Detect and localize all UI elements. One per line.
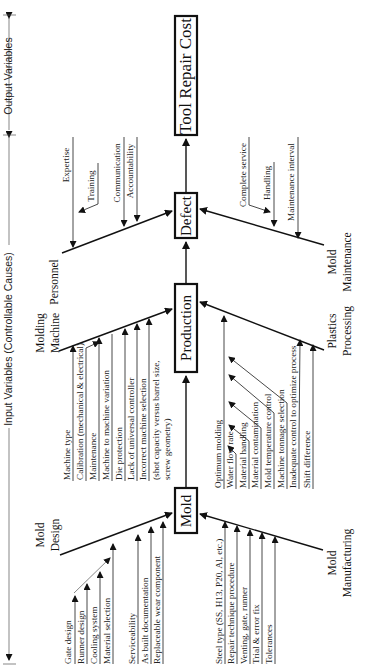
personnel-branch-line [62, 211, 172, 253]
cause-training: Training [86, 170, 96, 202]
node-tool-repair-cost: Tool Repair Cost [175, 16, 197, 135]
mold-design-line1: Mold [34, 522, 46, 547]
mold-label: Mold [178, 494, 194, 527]
branch-personnel: Personnel Expertise Training Communicati… [48, 137, 172, 305]
cause-handling: Handling [262, 166, 272, 201]
cause-steel-type: Steel type (SS, H13, P20, Al, etc.) [214, 539, 224, 664]
plastics-processing-branch-line [200, 302, 324, 350]
cause-serviceability: Serviceability [127, 613, 137, 664]
node-defect: Defect [175, 193, 197, 238]
node-production: Production [175, 284, 197, 372]
cause-tonnage-selection: Machine tonnage selection [276, 389, 286, 488]
axis-bracket: Input Variables (Controllable Causes) Ou… [2, 15, 16, 664]
mold-maintenance-line1: Mold [326, 249, 338, 274]
cause-material-selection: Material selection [102, 598, 112, 664]
cause-mold-temperature: Mold temperature control [263, 393, 273, 488]
mold-design-line2: Design [49, 518, 62, 551]
branch-mold-design: Mold Design Gate design Runner design Co… [34, 513, 172, 664]
production-label: Production [178, 295, 194, 361]
branch-plastics-processing: Plastics Processing Optimum molding Wate… [200, 302, 354, 489]
cause-cooling-system: Cooling system [89, 607, 99, 664]
cause-shift-difference: Shift difference [302, 431, 312, 488]
mold-maintenance-branch-line [200, 209, 324, 245]
branch-mold-manufacturing: Mold Manufacturing Steel type (SS, H13, … [200, 514, 354, 664]
branch-mold-maintenance: Mold Maintenance Complete service Handli… [200, 137, 353, 292]
cause-expertise: Expertise [61, 148, 71, 183]
cause-venting: Venting, gate, runner [239, 587, 249, 664]
mold-design-branch-line [60, 513, 172, 555]
cause-water-flow: Water flow rate [225, 431, 235, 488]
fishbone-diagram: Input Variables (Controllable Causes) Ou… [0, 0, 365, 672]
node-mold: Mold [175, 488, 197, 533]
cause-accountability: Accountability [125, 143, 135, 198]
cause-complete-service: Complete service [238, 143, 248, 207]
tool-repair-cost-label: Tool Repair Cost [176, 18, 195, 134]
molding-machine-line2: Machine [49, 313, 61, 353]
defect-label: Defect [178, 195, 194, 236]
cause-machine-type: Machine type [62, 430, 72, 480]
output-variables-label: Output Variables [2, 37, 14, 114]
plastics-processing-line2: Processing [341, 306, 354, 356]
cause-runner-design: Runner design [76, 610, 86, 664]
cause-gate-design: Gate design [63, 620, 73, 664]
mold-manufacturing-line1: Mold [326, 550, 338, 575]
personnel-category-label: Personnel [48, 259, 60, 304]
mold-manufacturing-line2: Manufacturing [341, 529, 354, 598]
cause-repair-technique: Repair technique procedure [226, 562, 236, 664]
input-variables-label: Input Variables (Controllable Causes) [2, 252, 14, 426]
cause-machine-selection: Incorrect machine selection [138, 378, 148, 480]
cause-die-protection: Die protection [114, 427, 124, 480]
mold-maintenance-line2: Maintenance [341, 232, 353, 291]
molding-machine-line1: Molding [34, 313, 47, 353]
cause-maintenance-interval: Maintenance interval [286, 143, 296, 221]
cause-calibration: Calibration (mechanical & electrical) [75, 343, 85, 480]
cause-as-built: As built documentation [140, 577, 150, 664]
mold-design-sub-branch [74, 558, 110, 593]
cause-communication: Communication [112, 143, 122, 203]
cause-machine-variation: Machine to machine variation [101, 370, 111, 480]
cause-inadequate-control: Inadequate control to optimize process [288, 345, 298, 488]
cause-tolerances: Tolerances [264, 624, 274, 664]
cause-material-contamination: Material contamination [250, 402, 260, 488]
cause-machine-selection-note-2: screw geometry) [162, 419, 172, 480]
cause-material-handling: Material handling [238, 422, 248, 488]
cause-maintenance: Maintenance [88, 433, 98, 480]
cause-machine-selection-note-1: (shot capacity versus barrel size, [151, 360, 161, 480]
plastics-processing-line1: Plastics [326, 313, 338, 349]
branch-molding-machine: Molding Machine Machine type Calibration… [34, 309, 172, 481]
cause-optimum-molding: Optimum molding [213, 419, 223, 488]
cause-universal-controller: Lack of universal controller [126, 378, 136, 480]
inadequate-control-line [299, 340, 300, 489]
cause-trial-error: Trial & error fix [251, 604, 261, 664]
cause-wear-component: Replaceable wear component [152, 555, 162, 664]
